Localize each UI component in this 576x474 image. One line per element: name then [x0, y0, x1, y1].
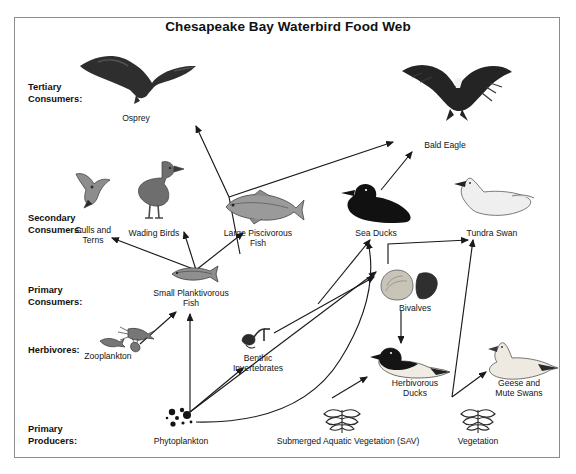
label-bald-eagle: Bald Eagle: [400, 140, 490, 150]
gulls-and-terns-icon: [72, 170, 114, 212]
label-osprey: Osprey: [86, 113, 186, 123]
label-sea-ducks: Sea Ducks: [338, 228, 414, 238]
label-bivalves: Bivalves: [384, 303, 446, 313]
label-geese-and-mute-swans: Geese and Mute Swans: [477, 378, 561, 398]
label-small-planktivorous-fish: Small Planktivorous Fish: [139, 288, 243, 308]
label-submerged-aquatic-vegetation: Submerged Aquatic Vegetation (SAV): [253, 436, 443, 446]
submerged-aquatic-vegetation-icon: [320, 404, 364, 434]
bald-eagle-icon: [398, 55, 516, 127]
sea-ducks-icon: [337, 182, 415, 224]
vegetation-icon: [458, 404, 498, 434]
label-tundra-swan: Tundra Swan: [450, 228, 534, 238]
label-vegetation: Vegetation: [443, 436, 513, 446]
bivalves-icon: [379, 268, 441, 302]
arrow-sav-to-sea-ducks: [196, 242, 371, 422]
label-benthic-invertebrates: Benthic Invertebrates: [215, 353, 301, 373]
label-large-piscivorous-fish: Large Piscivorous Fish: [208, 228, 308, 248]
arrow-vegetation-to-tundra-swan: [452, 240, 473, 397]
herbivorous-ducks-icon: [370, 346, 454, 380]
label-wading-birds: Wading Birds: [114, 228, 194, 238]
wading-birds-icon: [132, 160, 184, 222]
osprey-icon: [78, 48, 198, 110]
label-herbivorous-ducks: Herbivorous Ducks: [375, 378, 455, 398]
large-piscivorous-fish-icon: [220, 188, 304, 224]
phytoplankton-icon: [163, 406, 199, 432]
arrow-sav-to-herbivorous-ducks: [332, 377, 367, 398]
arrow-bivalves-to-tundra-swan: [388, 240, 468, 264]
geese-and-mute-swans-icon: [480, 340, 560, 382]
benthic-invertebrates-icon: [240, 327, 272, 351]
label-phytoplankton: Phytoplankton: [135, 436, 227, 446]
tundra-swan-icon: [452, 176, 536, 222]
small-planktivorous-fish-icon: [168, 263, 220, 285]
zooplankton-icon: [98, 325, 158, 353]
food-web-diagram: Chesapeake Bay Waterbird Food Web Tertia…: [0, 0, 576, 474]
label-zooplankton: Zooplankton: [66, 351, 150, 361]
